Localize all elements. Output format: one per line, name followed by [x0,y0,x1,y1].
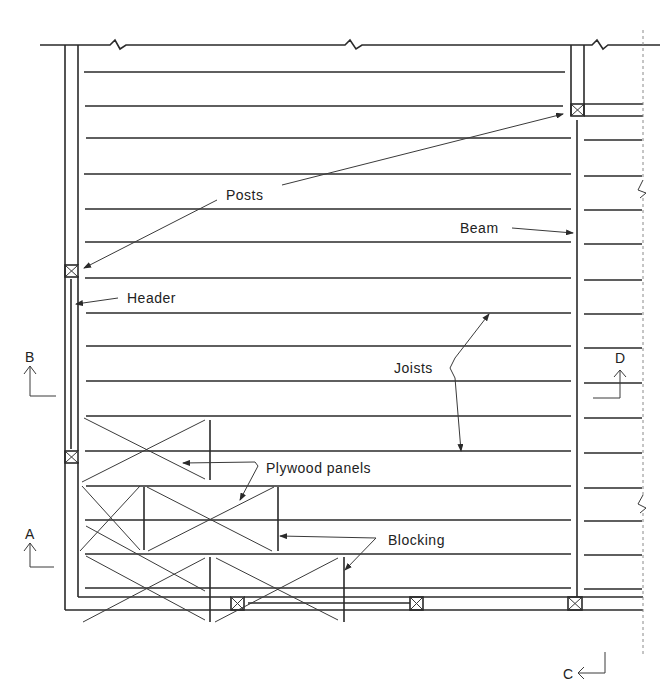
section-mark-c: C [563,652,605,682]
post-bottom-right [568,597,582,610]
bottom-wall [65,597,643,610]
svg-text:C: C [563,666,573,682]
joists-right-span [584,140,642,589]
svg-text:A: A [25,526,35,542]
plywood-panel-row3a-x [83,556,205,622]
plywood-panel-row3b [215,558,338,622]
right-edge [638,30,646,655]
plywood-panel-row1 [82,418,205,482]
plywood-panel-row2b [147,487,274,551]
section-mark-b: B [24,349,56,396]
section-mark-a: A [24,526,54,567]
post-top-right [571,104,584,116]
plywood-panel-row3a [86,526,205,591]
section-mark-d: D [593,350,626,398]
svg-text:B: B [25,349,34,365]
label-joists: Joists [394,360,433,376]
post-left-lower [65,451,78,463]
leader-arrows [76,114,573,570]
label-beam: Beam [460,220,499,236]
svg-text:D: D [615,350,625,366]
label-blocking: Blocking [388,532,445,548]
label-header: Header [127,290,176,306]
top-right-wall [571,45,643,116]
post-bottom-middle [410,597,423,610]
framing-plan-drawing: Posts Header Beam Joists Plywood panels … [0,0,664,689]
label-posts: Posts [226,187,264,203]
top-edge-line [40,40,660,49]
post-left-upper [65,265,78,277]
plywood-panel-row2a [80,486,140,551]
label-plywood-panels: Plywood panels [266,460,371,476]
joists-left-span [84,72,571,588]
